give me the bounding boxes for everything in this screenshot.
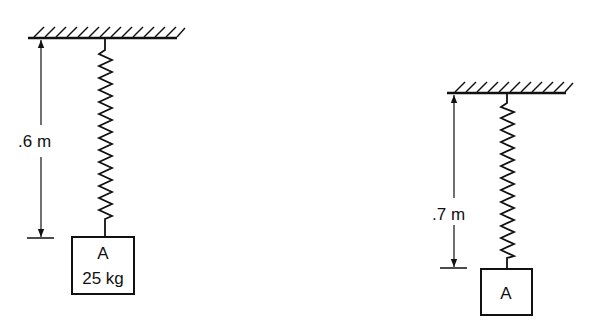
- right-block: A: [481, 269, 532, 315]
- left-distance-label: .6 m: [18, 132, 51, 151]
- left-block: A 25 kg: [72, 237, 134, 294]
- right-ceiling: [447, 82, 573, 93]
- right-system: .7 m A: [432, 82, 573, 315]
- right-spring: [501, 93, 514, 269]
- left-block-mass: 25 kg: [82, 269, 124, 288]
- left-block-label: A: [97, 244, 109, 263]
- right-distance-label: .7 m: [432, 205, 465, 224]
- left-ceiling: [28, 27, 185, 38]
- right-block-label: A: [500, 284, 512, 303]
- left-spring: [99, 38, 112, 237]
- spring-mass-diagram: .6 m A 25 kg: [0, 0, 596, 336]
- right-dimension-arrow: [440, 95, 467, 268]
- left-system: .6 m A 25 kg: [18, 27, 185, 294]
